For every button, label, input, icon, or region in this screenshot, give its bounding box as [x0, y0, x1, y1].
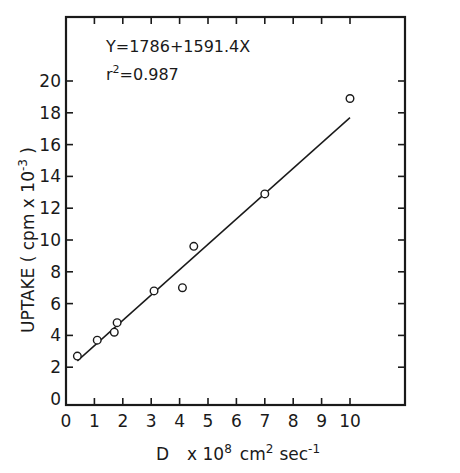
- x-tick-label: 1: [89, 411, 100, 431]
- y-axis-title: UPTAKE ( cpm x 10-3 ): [16, 147, 38, 333]
- y-tick-label: 14: [39, 166, 61, 186]
- data-point-marker: [150, 287, 158, 295]
- x-axis-title: Dx 108cm2sec-1: [156, 442, 320, 464]
- data-point-marker: [179, 284, 187, 292]
- x-tick-label: 8: [288, 411, 299, 431]
- data-point-marker: [74, 352, 82, 360]
- data-points: [74, 95, 354, 360]
- y-tick-label: 20: [39, 71, 61, 91]
- x-tick-label: 4: [174, 411, 185, 431]
- data-point-marker: [190, 243, 198, 251]
- y-tick-label: 4: [50, 325, 61, 345]
- data-point-marker: [113, 319, 121, 327]
- y-tick-label: 12: [39, 198, 61, 218]
- y-tick-label: 16: [39, 135, 61, 155]
- x-tick-label: 2: [117, 411, 128, 431]
- y-tick-label: 8: [50, 262, 61, 282]
- data-point-marker: [346, 95, 354, 103]
- x-tick-label: 7: [259, 411, 270, 431]
- x-tick-label: 9: [316, 411, 327, 431]
- x-tick-label: 0: [61, 411, 72, 431]
- y-tick-label: 0: [50, 389, 61, 409]
- y-tick-label: 2: [50, 357, 61, 377]
- data-point-marker: [110, 328, 118, 336]
- uptake-vs-diffusion-chart: 01234567891002468101214161820 Y=1786+159…: [0, 0, 460, 473]
- y-tick-label: 6: [50, 294, 61, 314]
- r-squared-label: r2=0.987: [106, 63, 179, 84]
- equation-label: Y=1786+1591.4X: [105, 37, 250, 56]
- axis-ticks: 01234567891002468101214161820: [39, 17, 405, 431]
- y-tick-label: 10: [39, 230, 61, 250]
- x-tick-label: 10: [339, 411, 361, 431]
- data-point-marker: [93, 336, 101, 344]
- y-tick-label: 18: [39, 103, 61, 123]
- x-tick-label: 3: [146, 411, 157, 431]
- x-tick-label: 5: [203, 411, 214, 431]
- x-tick-label: 6: [231, 411, 242, 431]
- data-point-marker: [261, 190, 269, 198]
